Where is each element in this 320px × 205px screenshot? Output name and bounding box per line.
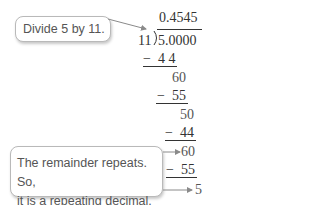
dividend: 5.0000 [158, 34, 197, 48]
subtract-sign-1: − [143, 52, 151, 66]
remainder-3: 60 [181, 145, 195, 159]
subtrahend-2: 55 [172, 89, 186, 103]
arrow-to-divisor-icon [108, 19, 146, 29]
subtract-sign-3: − [165, 126, 173, 140]
vinculum [157, 29, 202, 30]
underline-1 [143, 66, 177, 67]
underline-3 [165, 140, 196, 141]
subtrahend-4: 55 [181, 163, 195, 177]
divisor: 11 [138, 34, 151, 48]
subtrahend-1: 4 4 [158, 52, 176, 66]
quotient: 0.4545 [159, 11, 198, 25]
underline-4 [166, 177, 197, 178]
subtrahend-3: 44 [180, 126, 194, 140]
subtract-sign-4: − [166, 163, 174, 177]
remainder-1: 60 [172, 71, 186, 85]
subtract-sign-2: − [157, 89, 165, 103]
remainder-final: 5 [195, 183, 202, 197]
underline-2 [156, 103, 188, 104]
remainder-2: 50 [180, 108, 194, 122]
